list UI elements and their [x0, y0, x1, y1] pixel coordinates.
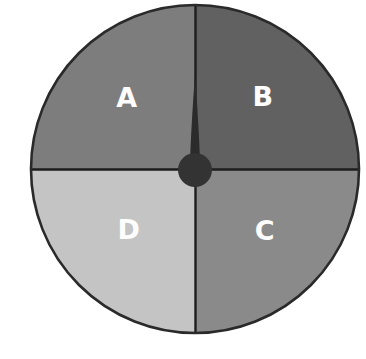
sector-label-b: B	[252, 81, 273, 112]
spinner-wheel-canvas: A B C D	[0, 0, 366, 359]
wheel-sector-d[interactable]	[31, 169, 195, 333]
wheel-sector-c[interactable]	[195, 169, 359, 333]
wheel-sector-b[interactable]	[195, 5, 359, 169]
sector-label-d: D	[118, 214, 141, 245]
sector-label-a: A	[116, 82, 137, 113]
sector-label-c: C	[255, 215, 275, 246]
spinner-wheel-figure: A B C D	[0, 0, 366, 359]
wheel-sector-a[interactable]	[31, 5, 195, 169]
needle-hub	[178, 153, 212, 187]
